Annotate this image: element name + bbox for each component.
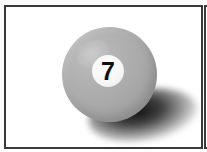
- billiard-ball: 7: [62, 27, 157, 122]
- number-disc: 7: [92, 55, 124, 87]
- adjacent-frame-edge: [204, 5, 207, 149]
- ball-number: 7: [101, 59, 115, 84]
- image-stage: 7: [0, 0, 207, 152]
- image-frame: 7: [4, 5, 203, 149]
